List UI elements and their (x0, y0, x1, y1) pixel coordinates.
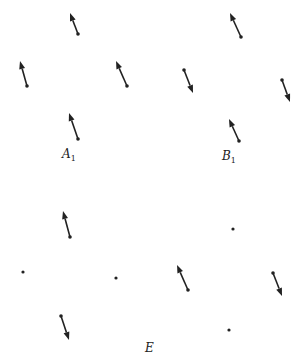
spin-arrow-icon (182, 68, 193, 93)
spin-lattice-diagram (0, 0, 307, 363)
spin-arrow-icon (19, 61, 29, 88)
spin-arrow-icon (62, 211, 72, 239)
group-b1 (182, 13, 290, 143)
site-dot-icon (114, 276, 117, 279)
spin-arrow-icon (177, 265, 190, 292)
label-e: E (145, 342, 154, 357)
spin-arrow-icon (280, 78, 290, 102)
label-b1: B1 (222, 150, 236, 165)
site-dot-icon (21, 270, 24, 273)
spin-arrow-icon (70, 13, 80, 36)
group-e (21, 211, 282, 340)
site-dot-icon (227, 328, 230, 331)
spin-arrow-icon (229, 119, 241, 143)
spin-arrow-icon (69, 113, 80, 141)
spin-arrow-icon (230, 13, 243, 39)
spin-arrow-icon (59, 314, 69, 340)
label-a1: A1 (62, 148, 76, 163)
site-dot-icon (231, 227, 234, 230)
group-a1 (19, 13, 129, 141)
spin-arrow-icon (116, 61, 129, 88)
spin-arrow-icon (271, 271, 282, 296)
